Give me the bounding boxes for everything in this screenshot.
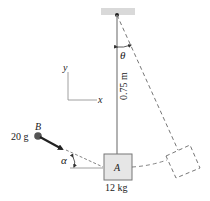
bullet-mass-label: 20 g [11,131,29,142]
bullet-name-label: B [35,121,41,132]
alpha-dashed-line [66,150,103,167]
bullet-b [34,132,42,140]
block-mass-label: 12 kg [105,182,128,193]
pendulum-diagram: θ 0.75 m y x B 20 g α A 12 kg [0,0,210,201]
theta-angle-arc [117,45,131,47]
displaced-block-dashed [166,145,200,178]
axis-x-label: x [97,94,103,105]
coordinate-axes: y x [62,62,103,105]
axis-y-label: y [62,62,68,73]
alpha-label: α [61,154,67,166]
block-name-label: A [113,162,121,173]
swing-path-dashed [132,160,167,167]
theta-label: θ [120,49,126,61]
length-label: 0.75 m [118,72,129,100]
bullet-velocity-arrow [40,137,62,149]
alpha-angle-arc [73,157,75,167]
